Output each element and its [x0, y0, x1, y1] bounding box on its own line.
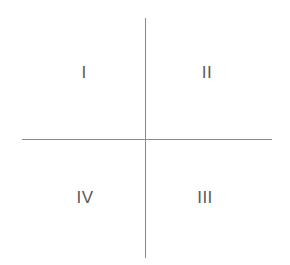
- quadrant-diagram: I II III IV: [0, 0, 290, 265]
- quadrant-label-i: I: [81, 64, 86, 81]
- quadrant-label-iv: IV: [76, 189, 93, 206]
- axes-group: [0, 0, 290, 265]
- quadrant-label-ii: II: [202, 64, 212, 81]
- quadrant-label-iii: III: [197, 189, 213, 206]
